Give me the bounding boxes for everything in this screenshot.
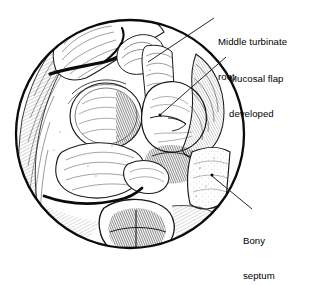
label-mucosal-flap: Mucosal flap developed — [229, 50, 283, 143]
label-bony-septum-line1: Bony — [243, 235, 275, 247]
label-bony-septum: Bony septum — [243, 212, 275, 285]
bony-septum — [188, 148, 232, 211]
label-mucosal-flap-line2: developed — [229, 108, 283, 120]
label-middle-turbinate-root-line1: Middle turbinate — [218, 36, 287, 48]
nasal-floor-right — [172, 206, 222, 257]
label-bony-septum-line2: septum — [243, 270, 275, 282]
label-mucosal-flap-line1: Mucosal flap — [229, 73, 283, 85]
